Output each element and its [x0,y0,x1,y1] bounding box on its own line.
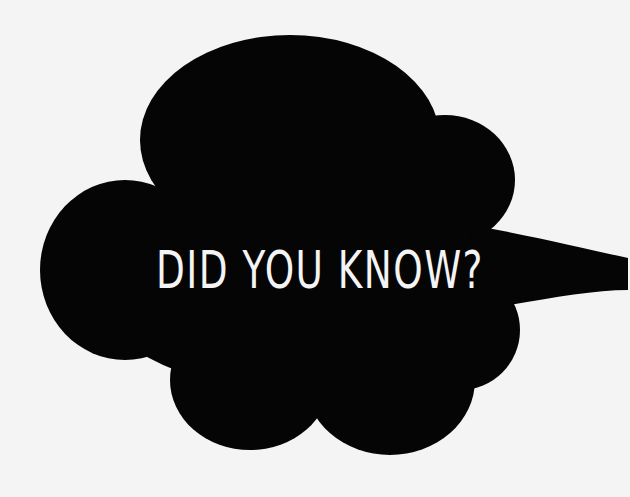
bubble-caption: DID YOU KNOW? [176,220,464,320]
thought-bubble-graphic: DID YOU KNOW? [0,0,630,497]
